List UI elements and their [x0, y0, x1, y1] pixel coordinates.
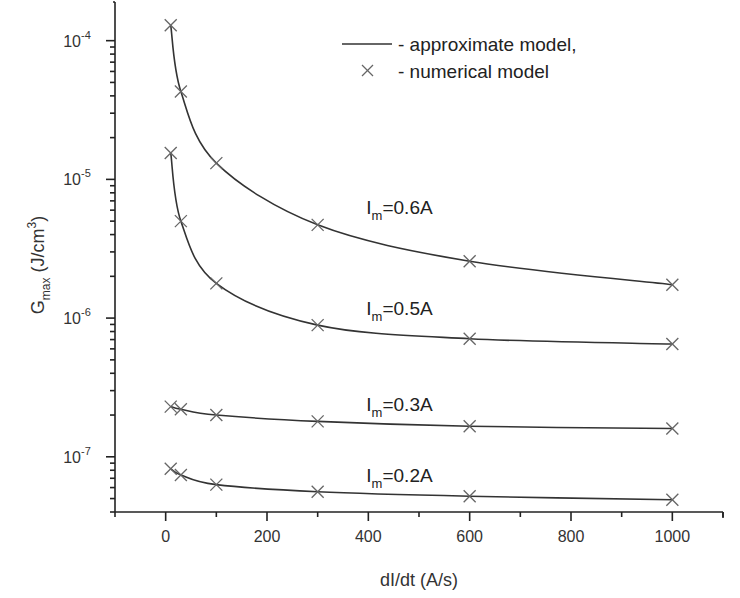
legend-cross-symbol: [362, 65, 373, 76]
x-tick-label: 800: [558, 528, 585, 545]
x-tick-label: 400: [355, 528, 382, 545]
data-point-marker: [312, 319, 324, 331]
x-tick-label: 600: [456, 528, 483, 545]
data-point-marker: [210, 157, 222, 169]
y-tick-label: 10-6: [63, 306, 91, 327]
chart: 0200400600800100010-710-610-510-4 Im=0.6…: [0, 0, 740, 598]
y-tick-label: 10-5: [63, 167, 91, 188]
series-label: Im=0.3A: [366, 394, 433, 420]
legend: - approximate model,- numerical model: [342, 34, 576, 82]
x-tick-label: 0: [161, 528, 170, 545]
axes: 0200400600800100010-710-610-510-4: [63, 2, 723, 545]
data-point-marker: [175, 215, 187, 227]
markers: [165, 19, 679, 505]
x-axis-title: dI/dt (A/s): [380, 570, 458, 590]
series-label: Im=0.6A: [366, 197, 433, 223]
data-point-marker: [210, 277, 222, 289]
data-point-marker: [175, 469, 187, 481]
data-point-marker: [165, 463, 177, 475]
data-point-marker: [175, 86, 187, 98]
y-tick-label: 10-4: [63, 29, 91, 50]
series-label: Im=0.2A: [366, 465, 433, 491]
legend-label: - numerical model: [398, 61, 549, 82]
series-labels: Im=0.6AIm=0.5AIm=0.3AIm=0.2A: [366, 197, 433, 491]
y-tick-label: 10-7: [63, 445, 91, 466]
data-point-marker: [175, 403, 187, 415]
x-tick-label: 1000: [655, 528, 691, 545]
y-axis-title: Gmax (J/cm3): [25, 216, 53, 314]
series-label: Im=0.5A: [366, 298, 433, 324]
legend-label: - approximate model,: [398, 34, 576, 55]
curves: [171, 25, 673, 499]
data-point-marker: [165, 401, 177, 413]
x-tick-label: 200: [254, 528, 281, 545]
data-point-marker: [312, 219, 324, 231]
